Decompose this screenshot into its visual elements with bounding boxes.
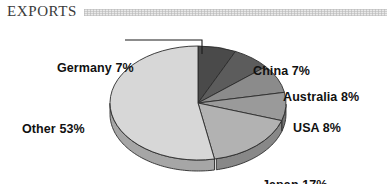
slice-label-japan: Japan 17% [262, 178, 328, 184]
pie-chart-graphic [0, 24, 387, 184]
pie-chart: Germany 7% China 7% Australia 8% USA 8% … [0, 24, 387, 184]
slice-label-china: China 7% [253, 64, 310, 78]
slice-label-germany: Germany 7% [57, 61, 134, 75]
slice-label-usa: USA 8% [293, 121, 341, 135]
page-title: EXPORTS [7, 3, 77, 20]
slice-label-other: Other 53% [22, 122, 85, 136]
chart-header: EXPORTS [0, 0, 387, 26]
slice-label-australia: Australia 8% [283, 90, 359, 104]
title-divider-band [84, 9, 387, 16]
